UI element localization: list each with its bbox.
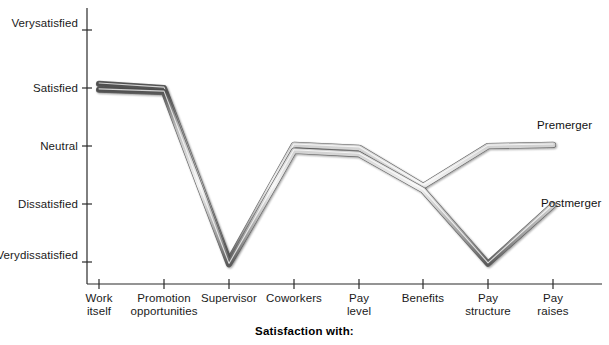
y-axis-label-dissatisfied: Dissatisfied — [18, 198, 78, 211]
series-line-premerger-base — [99, 84, 553, 261]
series-label-postmerger: Postmerger — [541, 197, 601, 209]
y-axis-label-very: Verysatisfied — [11, 17, 78, 30]
series-line-premerger-highlight — [99, 83, 553, 260]
merger-satisfaction-line-chart: VerysatisfiedSatisfiedNeutralDissatisfie… — [0, 0, 609, 345]
series-line-postmerger-base — [99, 90, 553, 265]
y-axis-label-very: Verydissatisfied — [0, 249, 78, 262]
x-axis-title: Satisfaction with: — [0, 325, 609, 337]
series-line-postmerger-highlight — [99, 89, 553, 264]
series-line-premerger — [99, 84, 553, 261]
series-line-postmerger — [99, 90, 553, 265]
x-axis-label-pay-raises: Payraises — [493, 292, 609, 318]
series-label-premerger: Premerger — [537, 119, 592, 131]
y-axis-label-satisfied: Satisfied — [33, 82, 78, 95]
chart-series-layer — [99, 83, 553, 264]
y-axis-label-neutral: Neutral — [40, 140, 78, 153]
